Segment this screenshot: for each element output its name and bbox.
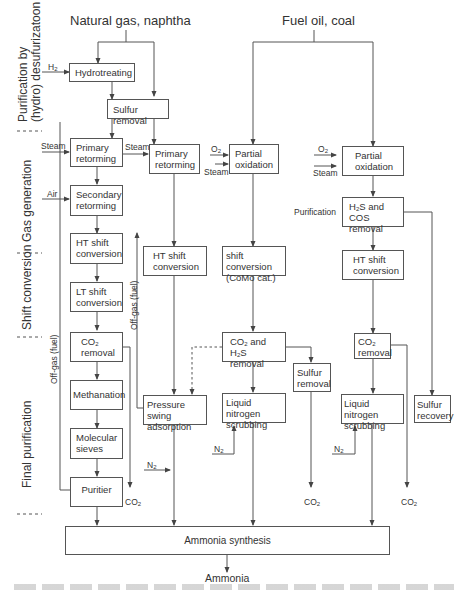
sulfur-recovery-box: Sulfur recovery	[414, 395, 451, 423]
liquid-nitrogen-scrubbing-box: Liquid nitrogen scrubbing	[222, 393, 286, 423]
ht-shift-conversion-box: HT shift conversion	[70, 233, 123, 264]
ammonia-synthesis-box: Ammonia synthesis	[65, 526, 390, 555]
co2-label-1: CO2	[125, 497, 141, 507]
primary-reforming-2-box: Primary retorming	[149, 144, 200, 174]
secondary-reforming-box: Secondary retorming	[70, 185, 123, 216]
stage-shift-conversion: Shift conversion	[21, 245, 34, 330]
hydrotreating-box: Hydrotreating	[69, 63, 135, 82]
ammonia-product-label: Ammonia	[205, 573, 249, 583]
lt-shift-conversion-box: LT shift conversion	[70, 282, 123, 312]
figure-caption-truncated	[14, 584, 454, 590]
n2-label-3: N2	[334, 444, 343, 454]
ht-shift-conversion-2-box: HT shift conversion	[143, 246, 207, 276]
stage-final-purification: Final purification	[21, 401, 34, 488]
n2-label-1: N2	[147, 460, 156, 470]
source-fuel-oil: Fuel oil, coal	[282, 13, 355, 28]
steam-label-2: Steam	[125, 142, 150, 152]
co2-label-3: CO2	[401, 497, 417, 507]
purification-label: Purification	[294, 207, 336, 217]
stage-purification: Purification by (hydro) desufurizatoon	[17, 2, 43, 122]
co2-removal-2-box: CO2 removal	[354, 333, 391, 359]
steam-label-1: Steam	[41, 141, 66, 151]
off-gas-fuel-label-2: Off-gas (fuel)	[129, 281, 139, 330]
air-label: Air	[47, 189, 57, 199]
stage-gas-generation: Gas generation	[21, 160, 34, 242]
co2-h2s-removal-box: CO2 and H2S removal	[222, 332, 286, 362]
molecular-sieves-box: Molecular sieves	[70, 428, 123, 459]
o2-label-2: O2	[318, 144, 328, 154]
off-gas-fuel-label-1: Off-gas (fuel)	[49, 335, 59, 384]
n2-label-2: N2	[214, 444, 223, 454]
sulfur-removal-2-box: Sulfur removal	[293, 363, 331, 392]
h2s-cos-removal-box: H2S and COS removal	[342, 197, 404, 227]
purifier-box: Puritier	[70, 477, 123, 507]
steam-label-4: Steam	[313, 168, 338, 178]
primary-reforming-box: Primary retorming	[70, 138, 123, 167]
liquid-nitrogen-scrubbing-2-box: Liquid nitrogen scrubbing	[341, 394, 404, 424]
pressure-swing-adsorption-box: Pressure swing adsorption	[143, 395, 207, 425]
partial-oxidation-2-box: Partial oxidation	[342, 146, 404, 176]
co2-label-2: CO2	[304, 497, 320, 507]
partial-oxidation-box: Partial oxidation	[229, 144, 279, 174]
ht-shift-conversion-3-box: HT shift conversion	[342, 250, 404, 280]
o2-label-1: O2	[211, 144, 221, 154]
methanation-box: Methanation	[70, 380, 123, 410]
co2-removal-box: CO2 removal	[70, 332, 123, 362]
steam-label-3: Steam	[204, 167, 229, 177]
ammonia-process-flow-diagram: Natural gas, naphtha Fuel oil, coal Puri…	[0, 0, 465, 595]
h2-label: H2	[48, 62, 57, 72]
shift-conversion-como-box: shift conversion (CoMo cat.)	[222, 246, 286, 276]
source-natural-gas: Natural gas, naphtha	[70, 13, 191, 28]
sulfur-removal-box: Sulfur removal	[107, 99, 169, 119]
